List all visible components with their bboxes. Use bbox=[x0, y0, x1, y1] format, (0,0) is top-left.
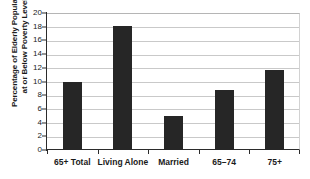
y-tick-label-18: 18 bbox=[33, 23, 42, 31]
y-tick-label-20: 20 bbox=[33, 9, 42, 17]
bar-slot bbox=[47, 13, 98, 150]
x-label-65-total: 65+ Total bbox=[54, 156, 90, 168]
bar-slot bbox=[98, 13, 149, 150]
y-axis-tick-labels: 20181614121086420 bbox=[26, 13, 42, 150]
x-tick-mark bbox=[98, 150, 99, 154]
x-tick-mark bbox=[249, 150, 250, 154]
bar[interactable] bbox=[63, 82, 82, 151]
bar[interactable] bbox=[215, 90, 234, 150]
x-axis-tick-marks bbox=[47, 150, 300, 154]
x-tick-mark bbox=[299, 150, 300, 154]
x-tick-mark bbox=[148, 150, 149, 154]
bar-slot bbox=[249, 13, 300, 150]
y-tick-label-16: 16 bbox=[33, 36, 42, 44]
bar-slot bbox=[199, 13, 250, 150]
y-tick-label-10: 10 bbox=[33, 78, 42, 86]
y-tick-label-12: 12 bbox=[33, 64, 42, 72]
x-tick-mark bbox=[47, 150, 48, 154]
y-tick-label-14: 14 bbox=[33, 50, 42, 58]
x-tick-mark bbox=[199, 150, 200, 154]
bar-chart-figure: Percentage of Elderly Population at or B… bbox=[0, 0, 310, 179]
x-axis-category-labels: 65+ TotalLiving AloneMarried65–7475+ bbox=[47, 156, 300, 170]
bar[interactable] bbox=[164, 116, 183, 150]
x-label-75: 75+ bbox=[267, 156, 281, 168]
bar-slot bbox=[148, 13, 199, 150]
bar[interactable] bbox=[113, 26, 132, 150]
x-label-living-alone: Living Alone bbox=[98, 156, 149, 168]
x-label-65-74: 65–74 bbox=[212, 156, 236, 168]
y-axis-title-line-1: Percentage of Elderly Population bbox=[10, 0, 21, 107]
bars-layer bbox=[47, 13, 300, 150]
x-label-married: Married bbox=[158, 156, 189, 168]
bar[interactable] bbox=[265, 70, 284, 150]
